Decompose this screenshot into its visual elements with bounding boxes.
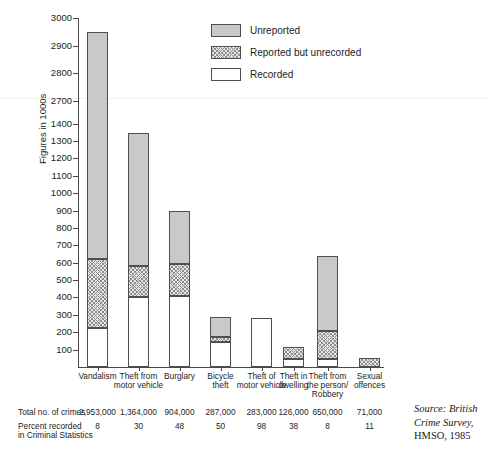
bar-segment-recorded — [128, 297, 149, 367]
y-tick-label: 200 — [56, 327, 72, 336]
table-row: Percent recordedin Criminal Statistics83… — [18, 422, 418, 442]
x-category-label-line: motor vehicle — [113, 381, 165, 390]
chart-figure: 1002003004005006007008009001000110012001… — [0, 0, 486, 464]
y-tick-label: 2800 — [51, 68, 72, 77]
x-tick-mark — [221, 367, 222, 371]
bar-theft-from-motor-vehicle — [128, 18, 149, 367]
x-axis-category-labels: VandalismTheft frommotor vehicleBurglary… — [78, 372, 386, 406]
legend-swatch-unreported — [211, 24, 241, 37]
bar-sexual-offences — [359, 18, 380, 367]
x-tick-mark — [328, 367, 329, 371]
bar-segment-recorded — [210, 342, 231, 367]
bar-segment-unreported — [128, 133, 149, 266]
bar-segment-recorded — [283, 359, 304, 367]
bar-segment-reported-but-unrecorded — [87, 259, 108, 328]
y-tick-label: 1300 — [51, 136, 72, 145]
x-axis-line — [78, 367, 384, 368]
y-tick-label: 900 — [56, 206, 72, 215]
y-tick-label: 800 — [56, 223, 72, 232]
x-tick-mark — [180, 367, 181, 371]
legend-label-unreported: Unreported — [250, 25, 300, 36]
bar-segment-recorded — [169, 296, 190, 367]
bar-burglary — [169, 18, 190, 367]
y-tick-label: 2700 — [51, 96, 72, 105]
y-axis-tick-labels: 1002003004005006007008009001000110012001… — [28, 18, 72, 368]
y-tick-label: 2900 — [51, 41, 72, 50]
source-line-1: Source: British — [414, 403, 477, 414]
bar-segment-unreported — [87, 32, 108, 259]
legend-swatch-reported-but-unrecorded — [211, 46, 241, 59]
y-tick-label: 1000 — [51, 188, 72, 197]
legend-item-recorded: Recorded — [211, 63, 361, 85]
x-tick-mark — [262, 367, 263, 371]
bar-segment-recorded — [251, 318, 272, 367]
y-tick-label: 1100 — [52, 171, 72, 180]
y-tick-label: 700 — [56, 240, 72, 249]
bar-segment-recorded — [87, 328, 108, 367]
x-category-label-line: offences — [344, 381, 396, 390]
legend-label-recorded: Recorded — [250, 69, 293, 80]
bar-segment-unreported — [169, 211, 190, 264]
y-tick-label: 500 — [56, 275, 72, 284]
legend: Unreported Reported but unrecorded Recor… — [211, 19, 361, 85]
bar-segment-recorded — [317, 359, 338, 367]
legend-swatch-recorded — [211, 68, 241, 81]
y-tick-label: 1400 — [51, 119, 72, 128]
table-row-cells: 83048509838811 — [78, 422, 418, 436]
legend-label-reported-but-unrecorded: Reported but unrecorded — [250, 47, 361, 58]
bar-vandalism — [87, 18, 108, 367]
bar-segment-unreported — [317, 256, 338, 332]
bar-segment-reported-but-unrecorded — [169, 264, 190, 296]
bar-segment-reported-but-unrecorded — [128, 266, 149, 297]
table-cell: 71,000 — [344, 408, 396, 417]
x-tick-mark — [139, 367, 140, 371]
y-tick-label: 300 — [56, 310, 72, 319]
bar-segment-reported-but-unrecorded — [283, 347, 304, 359]
source-line-3: HMSO, 1985 — [414, 430, 471, 441]
x-category-label-line: Robbery — [302, 390, 354, 399]
bar-segment-reported-but-unrecorded — [210, 337, 231, 342]
y-tick-label: 100 — [56, 345, 72, 354]
data-table: Total no. of crimes2,953,0001,364,000904… — [18, 408, 418, 442]
source-line-2: Crime Survey, — [414, 417, 474, 428]
bar-segment-reported-but-unrecorded — [359, 358, 380, 367]
x-tick-mark — [98, 367, 99, 371]
y-axis-title: Figures in 1000s — [37, 14, 48, 164]
source-note: Source: British Crime Survey, HMSO, 1985 — [414, 402, 486, 443]
y-tick-label: 1200 — [51, 153, 72, 162]
x-tick-mark — [370, 367, 371, 371]
legend-item-reported-but-unrecorded: Reported but unrecorded — [211, 41, 361, 63]
x-tick-mark — [294, 367, 295, 371]
table-cell: 11 — [344, 422, 396, 431]
y-tick-label: 600 — [56, 258, 72, 267]
bar-segment-unreported — [210, 317, 231, 336]
table-row-cells: 2,953,0001,364,000904,000287,000283,0001… — [78, 408, 418, 422]
legend-item-unreported: Unreported — [211, 19, 361, 41]
x-category-label: Sexualoffences — [344, 372, 396, 390]
table-row: Total no. of crimes2,953,0001,364,000904… — [18, 408, 418, 422]
y-tick-label: 400 — [56, 292, 72, 301]
y-tick-label: 3000 — [51, 13, 72, 22]
bar-segment-reported-but-unrecorded — [317, 331, 338, 359]
